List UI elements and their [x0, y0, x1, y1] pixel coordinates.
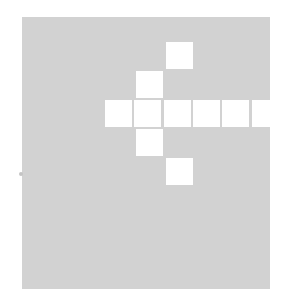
board-cell[interactable]: [252, 100, 279, 127]
board-cell[interactable]: [164, 100, 191, 127]
board-cell[interactable]: [166, 158, 193, 185]
board-cell[interactable]: [222, 100, 249, 127]
board-mark: [19, 172, 23, 176]
board-cell[interactable]: [166, 42, 193, 69]
board-cell[interactable]: [136, 71, 163, 98]
board-cell[interactable]: [136, 129, 163, 156]
board-cell[interactable]: [105, 100, 132, 127]
board-cell[interactable]: [134, 100, 161, 127]
board-cell[interactable]: [193, 100, 220, 127]
